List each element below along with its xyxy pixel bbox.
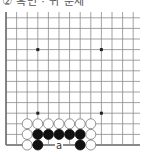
white-stone [43,119,53,129]
point-label-a: a [56,140,62,151]
point-labels: a [55,140,63,151]
black-stone [54,129,64,139]
star-point-icon [100,112,103,115]
white-stone [54,119,64,129]
white-stone [22,129,32,139]
white-stone [22,140,32,150]
black-stone [75,129,85,139]
go-board[interactable]: a [0,0,148,158]
white-stone [33,119,43,129]
white-stone [22,119,32,129]
star-point-icon [36,112,39,115]
black-stone [65,129,75,139]
white-stone [86,140,96,150]
white-stone [86,129,96,139]
star-point-icon [36,48,39,51]
white-stone [65,119,75,129]
star-point-icon [100,48,103,51]
black-stone [43,129,53,139]
black-stone [33,140,43,150]
white-stone [75,119,85,129]
black-stone [75,140,85,150]
black-stone [33,129,43,139]
white-stone [86,119,96,129]
